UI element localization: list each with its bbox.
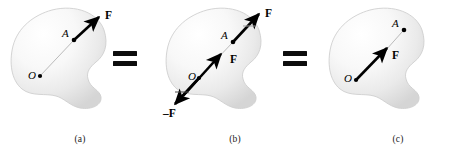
label-point-A: A bbox=[392, 18, 399, 29]
label-force-F: F bbox=[392, 50, 399, 62]
panel-b: O A F F –F (b) bbox=[155, 0, 315, 150]
point-O-dot bbox=[38, 74, 42, 78]
label-force-F: F bbox=[105, 10, 112, 22]
rigid-body-shape bbox=[166, 8, 261, 108]
equals-bar-top bbox=[113, 51, 137, 56]
label-point-O: O bbox=[344, 73, 352, 84]
equals-bar-top bbox=[283, 51, 307, 56]
caption-b: (b) bbox=[155, 134, 315, 144]
panel-b-drawing bbox=[155, 0, 315, 150]
panel-a: O A F (a) bbox=[0, 0, 160, 150]
label-point-A: A bbox=[62, 28, 69, 39]
figure-root: O A F (a) bbox=[0, 0, 474, 150]
caption-a: (a) bbox=[0, 134, 160, 144]
equals-bar-bottom bbox=[283, 61, 307, 66]
label-force-F-lower: F bbox=[230, 54, 237, 66]
caption-c: (c) bbox=[318, 134, 474, 144]
label-point-O: O bbox=[188, 71, 196, 82]
point-A-dot bbox=[402, 28, 407, 33]
label-force-F-upper: F bbox=[265, 8, 272, 20]
label-point-O: O bbox=[28, 70, 36, 81]
equals-sign-1 bbox=[113, 50, 137, 67]
label-point-A: A bbox=[221, 30, 228, 41]
equals-bar-bottom bbox=[113, 61, 137, 66]
equals-sign-2 bbox=[283, 50, 307, 67]
label-force-minus-F: –F bbox=[163, 108, 176, 120]
panel-a-drawing bbox=[0, 0, 160, 150]
panel-c: O A F (c) bbox=[318, 0, 474, 150]
